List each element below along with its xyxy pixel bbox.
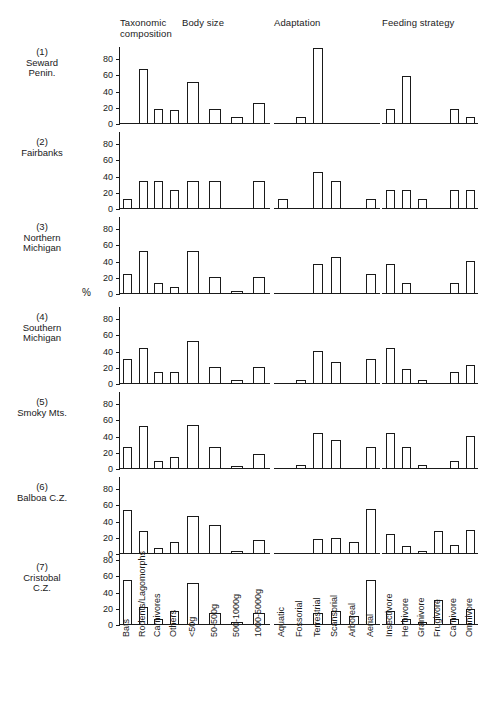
y-tick-label: 60	[103, 156, 113, 165]
panel-r2-c4	[382, 132, 478, 209]
y-tick	[116, 625, 120, 626]
bar	[402, 369, 411, 383]
y-tick-label: 20	[103, 449, 113, 458]
y-tick-label: 20	[103, 364, 113, 373]
bar	[209, 277, 221, 293]
column-title-2: Adaptation	[274, 18, 320, 29]
bar	[231, 291, 243, 293]
row-label-7: (7) Cristobal C.Z.	[6, 562, 78, 594]
bar	[123, 199, 132, 208]
panel-r6-c1	[120, 477, 182, 554]
bar	[418, 199, 427, 208]
y-tick	[116, 124, 120, 125]
panel-r4-c2	[182, 307, 270, 384]
y-tick-label: 40	[103, 88, 113, 97]
category-label: Carnivores	[153, 593, 162, 637]
bar	[418, 465, 427, 468]
y-tick-label: 20	[103, 104, 113, 113]
bar	[187, 82, 199, 123]
category-label: Carnivore	[449, 598, 458, 637]
y-tick-label: 40	[103, 589, 113, 598]
bar	[253, 454, 265, 468]
bar	[296, 117, 306, 123]
row-label-5: (5) Smoky Mts.	[6, 397, 78, 418]
y-tick-label: 80	[103, 55, 113, 64]
row-label-6: (6) Balboa C.Z.	[6, 482, 78, 503]
panel-r3-c2	[182, 217, 270, 294]
bar	[170, 110, 179, 123]
bar	[466, 261, 475, 293]
bar	[187, 181, 199, 208]
column-title-1: Body size	[182, 18, 224, 29]
y-tick-label: 80	[103, 140, 113, 149]
y-tick	[116, 294, 120, 295]
bar	[170, 372, 179, 383]
bar	[154, 181, 163, 208]
bar	[123, 447, 132, 468]
panel-r4-c4	[382, 307, 478, 384]
panel-r6-c4	[382, 477, 478, 554]
y-tick-label: 60	[103, 331, 113, 340]
bar	[366, 447, 376, 468]
bar	[466, 117, 475, 123]
panel-baseline	[120, 123, 182, 124]
y-tick-label: 40	[103, 173, 113, 182]
bar	[386, 190, 395, 208]
panel-r2-c3	[274, 132, 380, 209]
category-label: 1000-5000g	[254, 589, 263, 637]
bar	[331, 362, 341, 383]
panel-r4-c3	[274, 307, 380, 384]
bar	[123, 510, 132, 553]
bar	[366, 359, 376, 383]
panel-r5-c1	[120, 392, 182, 469]
bar	[296, 380, 306, 383]
bar	[123, 274, 132, 293]
bar	[450, 461, 459, 468]
panel-baseline	[382, 123, 478, 124]
y-tick-label: 40	[103, 433, 113, 442]
row-label-3: (3) Northern Michigan	[6, 222, 78, 254]
y-tick-label: 40	[103, 518, 113, 527]
category-label: Terrestrial	[313, 597, 322, 637]
y-tick-label: 20	[103, 605, 113, 614]
category-label: <50g	[188, 617, 197, 637]
panel-baseline	[382, 468, 478, 469]
panel-r6-c2	[182, 477, 270, 554]
category-label: Omnivore	[465, 598, 474, 637]
bar	[402, 190, 411, 208]
bar	[313, 264, 323, 293]
panel-baseline	[120, 208, 182, 209]
y-tick-label: 60	[103, 416, 113, 425]
panel-r1-c4	[382, 47, 478, 124]
column-title-0: Taxonomic composition	[120, 18, 172, 39]
bar	[450, 109, 459, 123]
y-tick-label: 20	[103, 274, 113, 283]
y-tick-label: 60	[103, 572, 113, 581]
bar	[366, 274, 376, 293]
bar	[366, 509, 376, 553]
panel-r3-c1	[120, 217, 182, 294]
bar	[386, 348, 395, 383]
figure-canvas: Taxonomic compositionBody sizeAdaptation…	[0, 0, 478, 727]
panel-baseline	[182, 468, 270, 469]
panel-r1-c3	[274, 47, 380, 124]
bar	[402, 76, 411, 123]
category-label: Herbivore	[401, 598, 410, 637]
panel-r1-c2	[182, 47, 270, 124]
bar	[386, 109, 395, 123]
bar	[154, 461, 163, 468]
y-tick-label: 80	[103, 556, 113, 565]
bar	[253, 367, 265, 383]
y-tick	[116, 469, 120, 470]
category-label: 500-1000g	[232, 594, 241, 637]
bar	[170, 190, 179, 208]
bar	[253, 277, 265, 293]
bar	[154, 109, 163, 123]
panel-r1-c1	[120, 47, 182, 124]
bar	[402, 447, 411, 468]
panel-r6-c3	[274, 477, 380, 554]
panel-r3-c4	[382, 217, 478, 294]
bar	[313, 48, 323, 123]
category-label: Aquatic	[277, 607, 286, 637]
bar	[402, 283, 411, 293]
